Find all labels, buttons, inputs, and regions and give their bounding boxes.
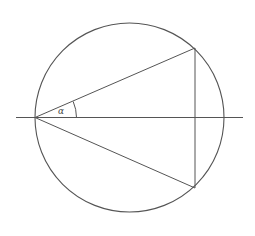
lower-chord	[35, 118, 195, 189]
geometry-canvas	[0, 0, 255, 236]
angle-label-alpha: α	[58, 107, 64, 116]
angle-arc	[73, 102, 76, 118]
geometry-figure: α	[0, 0, 255, 236]
